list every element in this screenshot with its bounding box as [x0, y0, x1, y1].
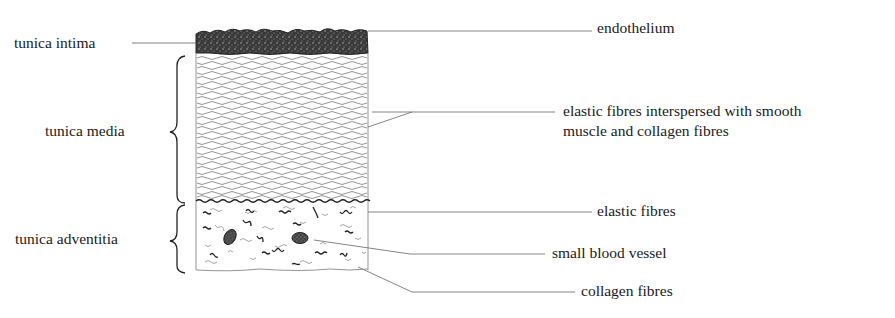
artery-wall-diagram: [0, 0, 895, 318]
label-elastic-interspersed-line1: elastic fibres interspersed with smooth: [563, 102, 801, 120]
leader-elastic-interspersed-branch: [368, 112, 412, 127]
label-endothelium: endothelium: [597, 19, 675, 37]
label-collagen-fibres: collagen fibres: [581, 282, 673, 300]
tunica-adventitia-layer: [196, 207, 368, 271]
leader-small-blood-vessel: [314, 240, 545, 254]
tunica-intima-layer: [196, 29, 368, 55]
label-tunica-adventitia: tunica adventitia: [15, 230, 118, 248]
tunica-media-brace: [170, 56, 185, 203]
blood-vessel-2: [292, 233, 308, 244]
elastic-boundary-line: [196, 200, 370, 203]
label-elastic-interspersed-line2: muscle and collagen fibres: [563, 122, 729, 140]
label-tunica-media: tunica media: [45, 122, 125, 140]
label-elastic-fibres: elastic fibres: [597, 202, 676, 220]
leader-collagen-fibres: [358, 267, 575, 292]
label-small-blood-vessel: small blood vessel: [552, 244, 667, 262]
label-tunica-intima: tunica intima: [14, 34, 95, 52]
tunica-media-layer: [196, 53, 368, 270]
tunica-adventitia-brace: [170, 205, 185, 273]
